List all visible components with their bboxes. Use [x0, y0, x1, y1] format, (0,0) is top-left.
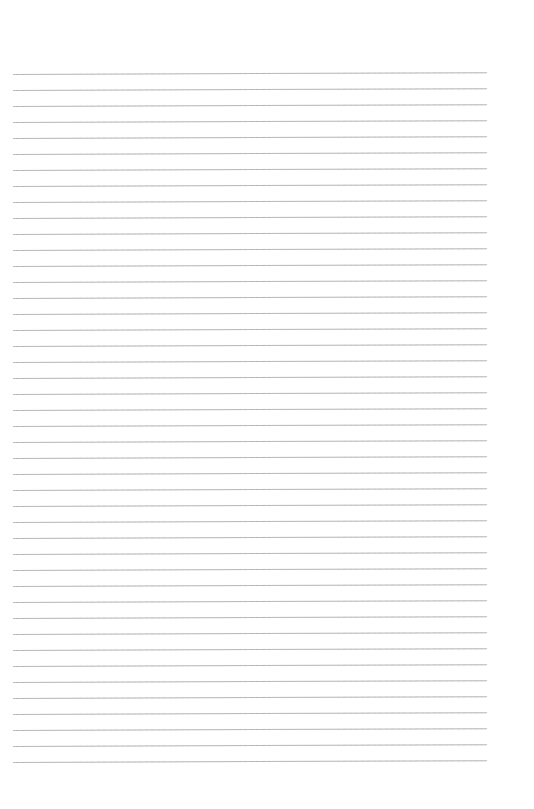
- ruled-line: [13, 456, 487, 459]
- ruled-line: [13, 632, 487, 635]
- ruled-line: [13, 536, 487, 539]
- ruled-line: [13, 200, 487, 203]
- ruled-line: [13, 136, 487, 139]
- ruled-line: [13, 328, 487, 331]
- ruled-line: [13, 712, 487, 715]
- ruled-line: [13, 344, 487, 347]
- ruled-line: [13, 648, 487, 651]
- ruled-line: [13, 264, 487, 267]
- ruled-line: [13, 120, 487, 123]
- ruled-line: [13, 472, 487, 475]
- ruled-line: [13, 488, 487, 491]
- ruled-line: [13, 440, 487, 443]
- ruled-line: [13, 280, 487, 283]
- ruled-line: [13, 680, 487, 683]
- ruled-line: [13, 520, 487, 523]
- ruled-line: [13, 744, 487, 747]
- ruled-line: [13, 104, 487, 107]
- ruled-line: [13, 504, 487, 507]
- ruled-line: [13, 184, 487, 187]
- ruled-line: [13, 584, 487, 587]
- ruled-line: [13, 360, 487, 363]
- ruled-line: [13, 392, 487, 395]
- ruled-line: [13, 568, 487, 571]
- ruled-line: [13, 696, 487, 699]
- ruled-line: [13, 216, 487, 219]
- lined-paper-page: [0, 0, 534, 809]
- ruled-line: [13, 408, 487, 411]
- ruled-line: [13, 152, 487, 155]
- ruled-line: [13, 664, 487, 667]
- ruled-line: [13, 248, 487, 251]
- ruled-line: [13, 72, 487, 75]
- ruled-line: [13, 552, 487, 555]
- ruled-line: [13, 376, 487, 379]
- ruled-line: [13, 232, 487, 235]
- ruled-line: [13, 88, 487, 91]
- ruled-line: [13, 424, 487, 427]
- ruled-line: [13, 616, 487, 619]
- ruled-line: [13, 168, 487, 171]
- ruled-line: [13, 312, 487, 315]
- ruled-line: [13, 728, 487, 731]
- ruled-line: [13, 296, 487, 299]
- ruled-line: [13, 760, 487, 763]
- ruled-line: [13, 600, 487, 603]
